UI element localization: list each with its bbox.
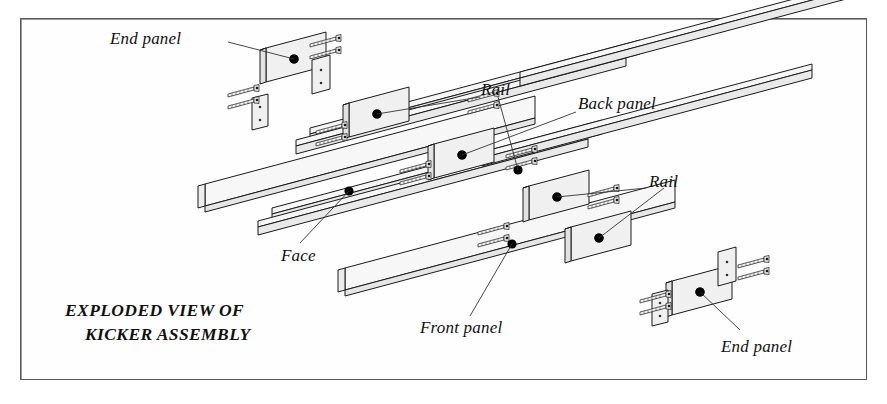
- rail-tab-right-upper: [718, 247, 736, 286]
- label-rail-lower: Rail: [649, 172, 678, 192]
- rail-tab-left-upper: [312, 55, 330, 94]
- label-face: Face: [281, 246, 316, 266]
- label-back-panel: Back panel: [578, 94, 656, 114]
- title-line-2: KICKER ASSEMBLY: [85, 324, 251, 345]
- dot-front-panel: [507, 239, 516, 248]
- label-end-panel-top: End panel: [110, 29, 181, 49]
- title-line-1: EXPLODED VIEW OF: [65, 300, 244, 321]
- label-front-panel: Front panel: [420, 318, 502, 338]
- screw-group-right-b: [738, 256, 769, 281]
- label-rail-upper: Rail: [481, 80, 510, 100]
- figure-canvas: End panel Rail Back panel Rail Face Fron…: [0, 0, 887, 404]
- label-end-panel-bottom: End panel: [721, 337, 792, 357]
- assembly-geometry: [198, 0, 850, 330]
